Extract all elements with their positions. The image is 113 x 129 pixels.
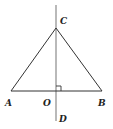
label-b: B — [97, 98, 106, 108]
geometry-diagram: C A O B D — [0, 0, 113, 129]
label-d: D — [58, 114, 67, 124]
label-o: O — [43, 98, 51, 108]
right-angle-mark — [56, 86, 61, 91]
segment-bc — [56, 28, 102, 91]
label-c: C — [60, 16, 68, 26]
label-a: A — [4, 98, 12, 108]
segment-ac — [11, 28, 56, 91]
